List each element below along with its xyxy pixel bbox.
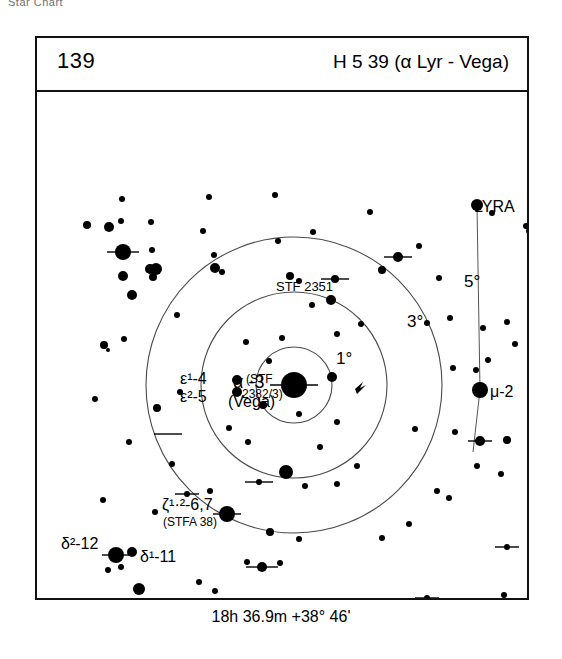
star-marker: [226, 425, 232, 431]
star-marker: [200, 228, 206, 234]
star-marker: [317, 444, 323, 450]
star-marker: [446, 495, 452, 501]
star-marker: [169, 461, 175, 467]
star-marker: [153, 404, 161, 412]
star-marker: [296, 536, 302, 542]
label-epsilon1: ε¹-4: [180, 370, 207, 387]
star-marker: [104, 222, 114, 232]
star-marker: [212, 588, 218, 594]
star-marker: [523, 223, 527, 229]
star-marker: [266, 528, 274, 536]
star-marker: [485, 357, 491, 363]
chart-number: 139: [57, 48, 95, 74]
star-marker: [275, 238, 281, 244]
star-marker: [100, 497, 106, 503]
named-star-marker: [219, 506, 235, 522]
star-marker: [126, 439, 132, 445]
star-marker: [243, 339, 249, 345]
star-marker: [149, 273, 157, 281]
star-marker: [416, 243, 422, 249]
line-lyra-a: [477, 205, 480, 390]
star-marker: [272, 192, 278, 198]
star-marker: [121, 336, 127, 342]
star-marker: [279, 335, 285, 341]
star-marker: [480, 325, 486, 331]
star-marker: [210, 263, 220, 273]
star-marker: [309, 302, 315, 308]
label-zeta: ζ¹·²-6,7: [162, 496, 213, 514]
star-marker: [92, 396, 98, 402]
star-marker: [118, 218, 124, 224]
star-marker: [406, 521, 412, 527]
ring-label-1deg: 1°: [336, 349, 352, 368]
star-marker: [498, 471, 504, 477]
star-marker: [326, 295, 336, 305]
star-marker: [149, 247, 155, 253]
star-marker: [207, 488, 213, 494]
star-marker: [436, 275, 442, 281]
star-marker: [504, 319, 510, 325]
star-marker: [302, 483, 308, 489]
named-star-marker: [472, 382, 488, 398]
star-marker: [206, 194, 212, 200]
star-marker: [219, 269, 225, 275]
star-marker: [358, 321, 364, 327]
star-marker: [196, 579, 202, 585]
label-epsilon-designation-2: 2382/3): [242, 387, 283, 401]
star-marker: [83, 221, 91, 229]
star-marker: [211, 252, 217, 258]
constellation-label-lyra: LYRA: [474, 198, 515, 215]
star-marker: [334, 331, 340, 337]
star-marker: [296, 411, 302, 417]
star-marker: [127, 290, 137, 300]
chart-title: H 5 39 (α Lyr - Vega): [333, 51, 509, 73]
star-marker: [503, 436, 511, 444]
star-marker: [244, 559, 250, 565]
label-kappa: κ-1: [500, 596, 522, 598]
label-stf-2351: STF 2351: [276, 279, 333, 294]
star-chart-page: Star Chart 139 H 5 39 (α Lyr - Vega): [0, 0, 562, 659]
star-marker: [174, 312, 180, 318]
star-marker: [118, 564, 124, 570]
star-marker: [424, 320, 430, 326]
star-marker: [245, 439, 251, 445]
label-epsilon2: ε²-5: [180, 388, 207, 405]
star-marker: [452, 429, 458, 435]
star-marker: [447, 315, 453, 321]
star-marker: [148, 219, 154, 225]
named-star-marker: [281, 372, 307, 398]
star-marker: [334, 419, 340, 425]
ring-label-5deg: 5°: [464, 272, 480, 291]
star-marker: [279, 465, 293, 479]
footer-coordinates: 18h 36.9m +38° 46': [0, 608, 562, 626]
label-epsilon-designation-1: (STF: [246, 372, 273, 386]
star-marker: [434, 488, 440, 494]
label-mu: μ-2: [490, 383, 514, 400]
chart-frame: 139 H 5 39 (α Lyr - Vega): [35, 36, 529, 600]
star-marker: [367, 209, 373, 215]
constellation-lines: [473, 205, 480, 452]
label-delta2: δ²-12: [61, 535, 98, 552]
star-marker: [133, 583, 145, 595]
star-marker: [450, 365, 456, 371]
star-marker: [106, 348, 110, 352]
chart-header: 139 H 5 39 (α Lyr - Vega): [37, 38, 527, 92]
star-marker: [378, 266, 386, 274]
named-star-marker: [108, 547, 124, 563]
label-delta1: δ¹-11: [140, 548, 176, 565]
star-marker: [310, 229, 316, 235]
star-marker: [119, 196, 125, 202]
star-marker: [379, 535, 385, 541]
star-marker: [354, 463, 360, 469]
direction-arrow-icon: [355, 382, 366, 394]
star-marker: [100, 341, 108, 349]
named-star-marker: [127, 547, 137, 557]
scan-caption: Star Chart: [8, 0, 63, 6]
star-marker: [473, 367, 479, 373]
label-zeta-designation: (STFA 38): [163, 515, 217, 529]
star-marker: [105, 567, 111, 573]
star-marker: [327, 372, 337, 382]
star-marker: [512, 341, 518, 347]
ring-label-3deg: 3°: [407, 312, 423, 331]
star-marker: [152, 509, 158, 515]
